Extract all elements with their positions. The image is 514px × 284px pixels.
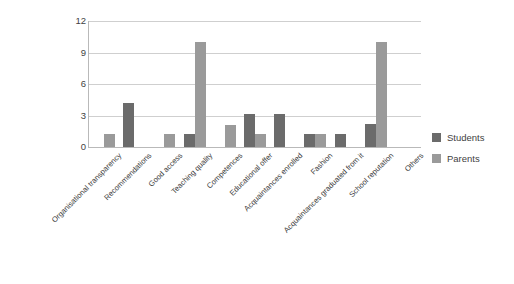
bar — [225, 125, 236, 147]
y-tick-label: 12 — [62, 16, 86, 26]
bar — [335, 134, 346, 147]
bar-group — [149, 21, 179, 147]
bars-layer — [89, 21, 421, 147]
bar-group — [89, 21, 119, 147]
bar — [255, 134, 266, 147]
bar-group — [119, 21, 149, 147]
bar — [123, 103, 134, 147]
bar — [195, 42, 206, 147]
bar-group — [391, 21, 421, 147]
x-tick-label: Acquaintances enrolled — [242, 151, 304, 213]
y-tick-label: 6 — [62, 79, 86, 89]
y-tick-label: 3 — [62, 111, 86, 121]
y-axis: 036912 — [62, 16, 86, 148]
x-tick-label: Others — [403, 151, 425, 173]
bar — [376, 42, 387, 147]
bar-group — [331, 21, 361, 147]
y-tick-label: 0 — [62, 142, 86, 152]
legend-label: Parents — [447, 154, 480, 164]
legend-swatch — [432, 154, 441, 163]
legend-swatch — [432, 133, 441, 142]
legend-item: Students — [432, 133, 485, 143]
bar-group — [210, 21, 240, 147]
bar — [304, 134, 315, 147]
bar — [315, 134, 326, 147]
legend-item: Parents — [432, 154, 485, 164]
bar-group — [300, 21, 330, 147]
x-tick-label: Fashion — [309, 151, 334, 176]
bar — [365, 124, 376, 147]
bar-group — [361, 21, 391, 147]
x-axis-line — [88, 147, 421, 148]
plot-area — [89, 21, 421, 147]
bar — [104, 134, 115, 147]
bar — [244, 114, 255, 147]
chart-legend: StudentsParents — [432, 133, 485, 163]
bar-group — [240, 21, 270, 147]
bar — [164, 134, 175, 147]
bar-chart: 036912 Organisational transparencyRecomm… — [0, 0, 514, 284]
bar — [184, 134, 195, 147]
legend-label: Students — [447, 133, 485, 143]
bar — [274, 114, 285, 147]
y-tick-label: 9 — [62, 48, 86, 58]
bar-group — [270, 21, 300, 147]
bar-group — [180, 21, 210, 147]
